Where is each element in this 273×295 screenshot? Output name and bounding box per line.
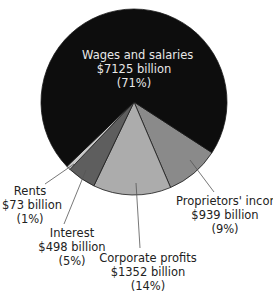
label-corporate-name: Corporate profits — [98, 251, 198, 265]
label-proprietors-pct: (9%) — [176, 222, 273, 236]
label-interest-name: Interest — [34, 226, 110, 240]
label-rents-name: Rents — [2, 184, 58, 198]
label-wages: Wages and salaries $7125 billion (71%) — [82, 48, 186, 90]
label-wages-name: Wages and salaries — [82, 48, 186, 62]
label-corporate-value: $1352 billion — [98, 265, 198, 279]
leader-line-interest — [64, 170, 86, 224]
label-interest-value: $498 billion — [34, 240, 110, 254]
label-proprietors: Proprietors' income $939 billion (9%) — [176, 194, 273, 236]
label-rents: Rents $73 billion (1%) — [2, 184, 58, 226]
label-proprietors-name: Proprietors' income — [176, 194, 273, 208]
label-wages-value: $7125 billion — [82, 62, 186, 76]
label-wages-pct: (71%) — [82, 76, 186, 90]
label-rents-value: $73 billion — [2, 198, 58, 212]
label-interest-pct: (5%) — [34, 254, 110, 268]
leader-line-rents — [45, 164, 74, 184]
label-interest: Interest $498 billion (5%) — [34, 226, 110, 268]
label-corporate-pct: (14%) — [98, 279, 198, 293]
label-corporate: Corporate profits $1352 billion (14%) — [98, 251, 198, 293]
label-proprietors-value: $939 billion — [176, 208, 273, 222]
label-rents-pct: (1%) — [2, 212, 58, 226]
